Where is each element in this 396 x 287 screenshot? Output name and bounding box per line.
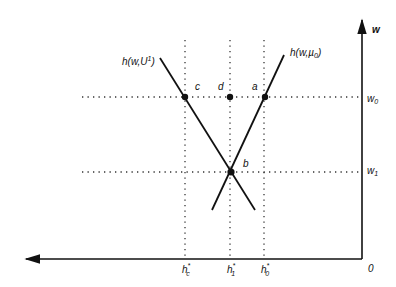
point-c — [182, 94, 188, 100]
y-tick-w0: w0 — [367, 93, 378, 105]
point-b-label: b — [243, 158, 249, 169]
curve-u0-line — [212, 55, 284, 210]
curve-u1-label: h(w,U1) — [122, 55, 155, 67]
compensated-labor-supply-diagram: c d a b h(w,U1) h(w,µ0) w 0 w0 w1 h*c h*… — [0, 0, 396, 287]
point-d — [227, 94, 233, 100]
point-d-label: d — [218, 81, 224, 92]
origin-label: 0 — [368, 263, 374, 274]
x-tick-h0: h*0 — [261, 262, 270, 277]
point-a-label: a — [252, 81, 258, 92]
curve-u0-label: h(w,µ0) — [290, 47, 321, 59]
point-b — [227, 168, 234, 175]
point-a — [262, 94, 268, 100]
dotted-guides — [82, 40, 360, 257]
y-tick-w1: w1 — [367, 165, 378, 177]
y-axis-label: w — [372, 24, 381, 35]
curve-u1-line — [160, 58, 255, 210]
x-tick-hc: h*c — [182, 262, 191, 277]
point-c-label: c — [195, 81, 200, 92]
x-tick-h1: h*1 — [227, 262, 236, 277]
